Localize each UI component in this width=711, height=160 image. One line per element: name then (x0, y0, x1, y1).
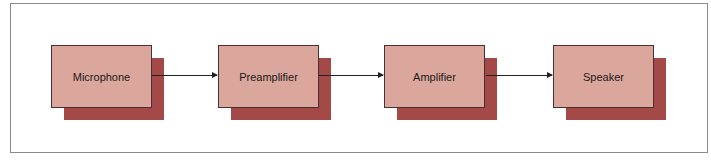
block-microphone: Microphone (51, 45, 152, 108)
block-speaker: Speaker (553, 45, 654, 108)
arrow-amplifier-to-speaker (486, 75, 552, 76)
arrow-microphone-to-preamplifier (152, 75, 217, 76)
arrow-preamplifier-to-amplifier (319, 75, 383, 76)
block-label: Microphone (51, 45, 152, 108)
block-label: Preamplifier (218, 45, 319, 108)
block-preamplifier: Preamplifier (218, 45, 319, 108)
block-label: Speaker (553, 45, 654, 108)
block-amplifier: Amplifier (384, 45, 485, 108)
block-label: Amplifier (384, 45, 485, 108)
